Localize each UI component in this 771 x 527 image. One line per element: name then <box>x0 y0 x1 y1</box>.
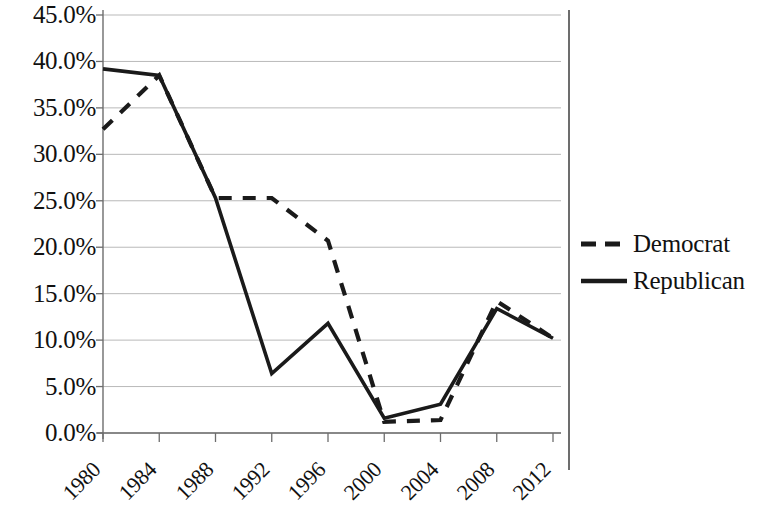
plot-area <box>103 15 553 433</box>
legend-marker-dashed-icon <box>580 237 628 251</box>
x-tick-label-2004: 2004 <box>396 458 442 504</box>
legend-marker-solid-icon <box>580 274 628 288</box>
axis-lines <box>97 10 561 439</box>
legend-label: Republican <box>633 268 745 293</box>
x-tick-label-1980: 1980 <box>59 458 105 504</box>
x-tick-label-1984: 1984 <box>115 458 161 504</box>
x-tick-label-2012: 2012 <box>509 458 555 504</box>
x-tick-label-1988: 1988 <box>171 458 217 504</box>
x-tick-label-1992: 1992 <box>228 458 274 504</box>
legend-item-democrat[interactable]: Democrat <box>580 225 770 262</box>
x-tick-label-2008: 2008 <box>453 458 499 504</box>
gridlines <box>103 15 561 433</box>
legend-item-republican[interactable]: Republican <box>580 262 770 299</box>
x-axis-tick-labels: 198019841988199219962000200420082012 <box>0 433 600 527</box>
data-series <box>103 69 553 422</box>
chart-legend: DemocratRepublican <box>580 225 770 299</box>
line-chart: 0.0%5.0%10.0%15.0%20.0%25.0%30.0%35.0%40… <box>0 0 771 527</box>
x-tick-label-2000: 2000 <box>340 458 386 504</box>
x-tick-label-1996: 1996 <box>284 458 330 504</box>
legend-label: Democrat <box>633 231 730 256</box>
axis-ticks <box>96 15 553 442</box>
series-line-democrat <box>103 75 553 421</box>
